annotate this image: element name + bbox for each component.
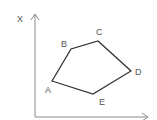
y-axis-arrow-icon bbox=[31, 14, 35, 20]
x-axis-arrow-icon bbox=[142, 113, 148, 117]
y-axis-arrow-icon bbox=[35, 14, 39, 20]
axis-label-x: X bbox=[17, 14, 23, 24]
vertex-label-b: B bbox=[61, 39, 67, 49]
axes bbox=[31, 14, 148, 120]
diagram-canvas: X ABCDE bbox=[0, 0, 157, 120]
vertex-label-e: E bbox=[99, 97, 105, 107]
vertex-label-d: D bbox=[135, 67, 142, 77]
vertex-label-a: A bbox=[45, 85, 51, 95]
vertex-label-c: C bbox=[96, 27, 103, 37]
